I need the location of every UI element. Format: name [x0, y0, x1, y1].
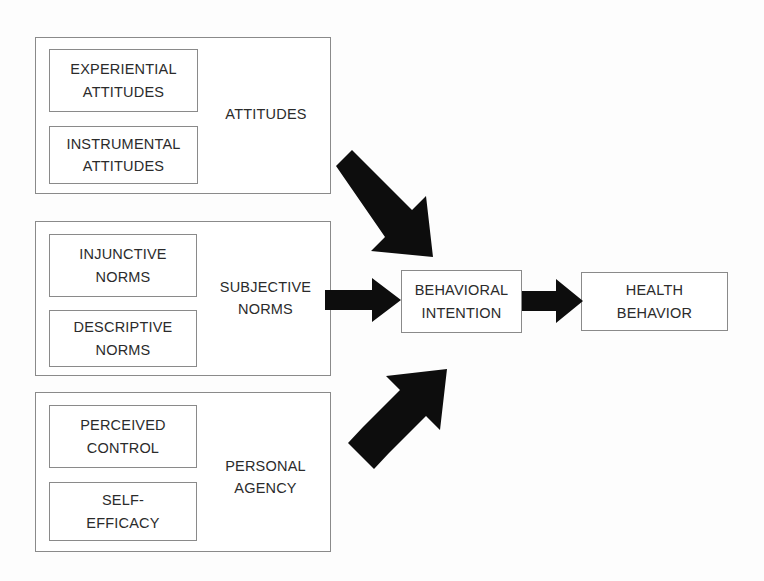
box-perceived-control: PERCEIVED CONTROL — [49, 405, 197, 468]
group-subjective-norms: INJUNCTIVE NORMS DESCRIPTIVE NORMS SUBJE… — [35, 221, 331, 376]
box-perceived-control-label: PERCEIVED CONTROL — [80, 414, 166, 459]
box-injunctive-norms: INJUNCTIVE NORMS — [49, 234, 197, 297]
box-descriptive-norms: DESCRIPTIVE NORMS — [49, 310, 197, 367]
box-behavioral-intention: BEHAVIORAL INTENTION — [401, 270, 522, 333]
box-health-behavior: HEALTH BEHAVIOR — [581, 272, 728, 331]
group-personal-agency-title: PERSONAL AGENCY — [208, 455, 323, 500]
box-health-behavior-label: HEALTH BEHAVIOR — [617, 279, 692, 324]
box-self-efficacy: SELF- EFFICACY — [49, 482, 197, 541]
box-experiential-attitudes: EXPERIENTIAL ATTITUDES — [49, 49, 198, 112]
arrow-intention-to-behavior — [522, 279, 583, 323]
behavioral-model-diagram: EXPERIENTIAL ATTITUDES INSTRUMENTAL ATTI… — [0, 0, 764, 581]
box-self-efficacy-label: SELF- EFFICACY — [86, 489, 159, 534]
group-subjective-norms-title: SUBJECTIVE NORMS — [208, 276, 323, 321]
box-behavioral-intention-label: BEHAVIORAL INTENTION — [415, 279, 509, 324]
box-experiential-attitudes-label: EXPERIENTIAL ATTITUDES — [70, 58, 176, 103]
box-instrumental-attitudes: INSTRUMENTAL ATTITUDES — [49, 126, 198, 184]
arrow-personal-agency-to-intention — [348, 369, 447, 469]
box-descriptive-norms-label: DESCRIPTIVE NORMS — [74, 316, 173, 361]
arrow-attitudes-to-intention — [336, 150, 433, 257]
box-injunctive-norms-label: INJUNCTIVE NORMS — [79, 243, 166, 288]
group-personal-agency: PERCEIVED CONTROL SELF- EFFICACY PERSONA… — [35, 392, 331, 552]
group-attitudes: EXPERIENTIAL ATTITUDES INSTRUMENTAL ATTI… — [35, 37, 331, 194]
group-attitudes-title: ATTITUDES — [211, 103, 321, 125]
box-instrumental-attitudes-label: INSTRUMENTAL ATTITUDES — [66, 133, 180, 178]
arrow-subjective-norms-to-intention — [325, 278, 401, 322]
